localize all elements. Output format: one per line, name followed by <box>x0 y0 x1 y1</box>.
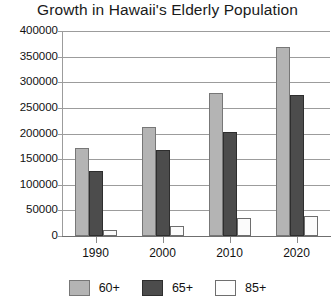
legend-swatch-65+ <box>142 280 163 296</box>
x-tick-label-2020: 2020 <box>265 246 329 260</box>
bar-2010-60+[interactable] <box>209 93 223 236</box>
y-tick-label: 0 <box>0 230 58 241</box>
bar-2020-65+[interactable] <box>290 95 304 236</box>
x-tick-label-2000: 2000 <box>131 246 195 260</box>
y-tick-mark <box>58 210 62 211</box>
bar-group <box>75 31 117 236</box>
bar-2010-85+[interactable] <box>237 218 251 236</box>
bar-group <box>142 31 184 236</box>
y-tick-label: 400000 <box>0 25 58 36</box>
bar-2020-85+[interactable] <box>304 216 318 237</box>
y-tick-label: 300000 <box>0 76 58 87</box>
bar-2000-60+[interactable] <box>142 127 156 236</box>
y-tick-mark <box>58 159 62 160</box>
x-tick-mark <box>96 237 97 243</box>
bar-group <box>276 31 318 236</box>
chart-container: Growth in Hawaii's Elderly Population 60… <box>0 0 335 303</box>
plot-area <box>62 31 330 236</box>
y-tick-label: 200000 <box>0 128 58 139</box>
y-tick-label: 350000 <box>0 51 58 62</box>
legend-label-65+: 65+ <box>172 281 193 295</box>
y-tick-mark <box>58 82 62 83</box>
legend-entry-85+[interactable]: 85+ <box>215 280 266 296</box>
x-tick-mark <box>163 237 164 243</box>
legend-entry-65+[interactable]: 65+ <box>142 280 193 296</box>
chart-title: Growth in Hawaii's Elderly Population <box>0 1 335 19</box>
legend-label-85+: 85+ <box>245 281 266 295</box>
y-tick-mark <box>58 108 62 109</box>
legend-entry-60+[interactable]: 60+ <box>69 280 120 296</box>
bar-group <box>209 31 251 236</box>
y-tick-mark <box>58 134 62 135</box>
y-tick-label: 100000 <box>0 179 58 190</box>
legend-swatch-60+ <box>69 280 90 296</box>
legend-swatch-85+ <box>215 280 236 296</box>
bar-1990-65+[interactable] <box>89 171 103 236</box>
x-tick-label-1990: 1990 <box>64 246 128 260</box>
legend-label-60+: 60+ <box>99 281 120 295</box>
y-tick-label: 150000 <box>0 153 58 164</box>
bar-2000-65+[interactable] <box>156 150 170 236</box>
x-tick-label-2010: 2010 <box>198 246 262 260</box>
y-tick-mark <box>58 57 62 58</box>
bar-2020-60+[interactable] <box>276 47 290 236</box>
y-tick-label: 50000 <box>0 204 58 215</box>
bar-2000-85+[interactable] <box>170 226 184 236</box>
bar-1990-60+[interactable] <box>75 148 89 236</box>
y-tick-mark <box>58 31 62 32</box>
x-tick-mark <box>297 237 298 243</box>
x-tick-mark <box>230 237 231 243</box>
bar-2010-65+[interactable] <box>223 132 237 236</box>
y-tick-mark <box>58 185 62 186</box>
y-tick-label: 250000 <box>0 102 58 113</box>
x-axis-line <box>62 236 331 237</box>
chart-legend: 60+65+85+ <box>0 276 335 300</box>
